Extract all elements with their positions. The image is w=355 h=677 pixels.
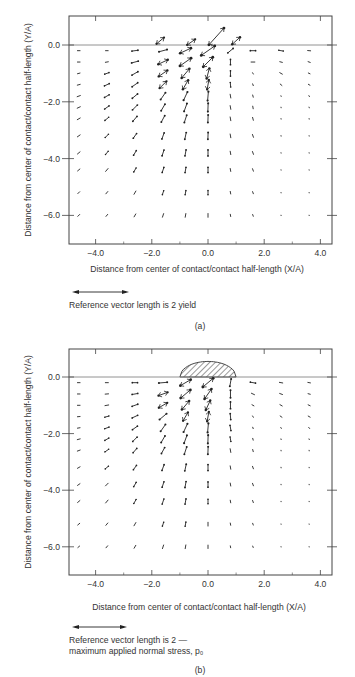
x-tick-label: 0.0 <box>202 579 214 589</box>
stress-vector <box>161 448 164 454</box>
stress-vector <box>184 435 187 443</box>
stress-vector <box>159 382 167 383</box>
axis-ticks-a: −4.0−2.00.02.04.00.0−2.0−4.0−6.0 <box>43 16 337 258</box>
y-tick-label: −4.0 <box>43 485 60 495</box>
stress-vector <box>180 58 191 66</box>
stress-vector <box>185 464 186 471</box>
stress-vector <box>232 37 240 44</box>
stress-vector <box>78 501 80 503</box>
stress-vector <box>161 93 166 100</box>
stress-vector <box>160 414 167 420</box>
stress-vector <box>280 393 283 394</box>
stress-vector <box>280 405 282 406</box>
y-tick-label: −2.0 <box>43 97 60 107</box>
stress-vector <box>309 96 310 97</box>
stress-vector <box>208 92 209 101</box>
stress-vector <box>160 81 167 88</box>
stress-vector <box>77 73 80 74</box>
stress-vector <box>162 133 164 139</box>
stress-vector <box>161 116 164 122</box>
stress-vector <box>132 72 138 75</box>
stress-vector <box>78 214 80 216</box>
x-tick-label: −4.0 <box>87 579 104 589</box>
stress-vector <box>77 439 80 440</box>
stress-vector <box>253 215 254 217</box>
stress-vector <box>185 545 186 549</box>
stress-vector <box>251 393 254 394</box>
stress-vector <box>162 214 163 218</box>
stress-vector <box>156 38 163 44</box>
vector-field-a <box>77 27 311 218</box>
stress-vector <box>253 546 254 547</box>
stress-vector <box>77 118 80 120</box>
stress-vector <box>308 405 310 406</box>
stress-vector <box>253 95 254 97</box>
stress-vector <box>77 467 80 469</box>
reference-text-a: Reference vector length is 2 yield <box>69 300 196 310</box>
stress-vector <box>106 523 108 525</box>
stress-vector <box>253 483 254 485</box>
x-tick-label: 2.0 <box>258 579 270 589</box>
stress-vector <box>253 84 254 86</box>
x-tick-label: −2.0 <box>143 579 160 589</box>
stress-vector <box>252 405 254 406</box>
stress-vector <box>162 465 164 471</box>
stress-vector <box>184 447 186 454</box>
reference-vector-a <box>72 290 129 294</box>
stress-vector <box>161 425 166 432</box>
vector-field-b <box>77 377 310 549</box>
stress-vector <box>230 168 231 171</box>
x-axis-label-b: Distance from center of contact/contact … <box>92 602 306 612</box>
stress-vector <box>253 169 254 171</box>
stress-vector <box>78 546 80 547</box>
stress-vector <box>134 523 136 526</box>
y-tick-label: −6.0 <box>43 542 60 552</box>
x-tick-label: −4.0 <box>87 248 104 258</box>
stress-vector <box>308 416 310 417</box>
stress-vector <box>205 389 212 399</box>
stress-vector <box>228 49 233 53</box>
stress-vector <box>253 427 254 428</box>
y-axis-label-b: Distance from center of contact/contact … <box>23 355 33 569</box>
y-axis-label-a: Distance from center of contact/contact … <box>23 23 33 237</box>
stress-vector <box>230 449 231 453</box>
stress-vector <box>252 152 253 155</box>
stress-vector <box>77 107 80 108</box>
stress-vector <box>184 424 188 432</box>
stress-vector <box>182 401 189 410</box>
stress-vector <box>230 134 231 138</box>
stress-vector <box>132 83 138 87</box>
stress-vector <box>78 484 80 486</box>
stress-vector <box>106 500 108 503</box>
stress-vector <box>230 94 231 98</box>
stress-vector <box>279 382 282 383</box>
x-axis-label-a: Distance from center of contact/contact … <box>90 264 304 274</box>
x-tick-label: 4.0 <box>314 579 326 589</box>
stress-vector <box>203 57 213 67</box>
x-tick-label: −2.0 <box>143 248 160 258</box>
stress-vector <box>185 133 186 140</box>
stress-vector <box>253 192 254 194</box>
x-tick-label: 2.0 <box>258 248 270 258</box>
stress-vector <box>280 73 283 75</box>
stress-vector <box>77 96 80 97</box>
stress-vector <box>132 61 139 63</box>
y-tick-label: 0.0 <box>48 40 60 50</box>
stress-vector <box>185 214 186 218</box>
stress-vector <box>280 84 282 85</box>
plot-frame-a <box>69 16 332 244</box>
stress-vector <box>77 450 80 451</box>
x-tick-label: 0.0 <box>202 248 214 258</box>
stress-vector <box>230 379 231 386</box>
stress-vector <box>201 46 215 55</box>
stress-vector <box>134 545 136 548</box>
stress-vector <box>106 546 108 548</box>
stress-vector <box>308 62 310 63</box>
stress-vector <box>230 466 231 469</box>
stress-vector <box>133 105 138 110</box>
stress-vector <box>106 483 109 486</box>
y-tick-label: 0.0 <box>48 372 60 382</box>
contact-pressure-region <box>180 361 236 377</box>
stress-vector <box>77 152 80 154</box>
stress-vector <box>161 436 165 442</box>
